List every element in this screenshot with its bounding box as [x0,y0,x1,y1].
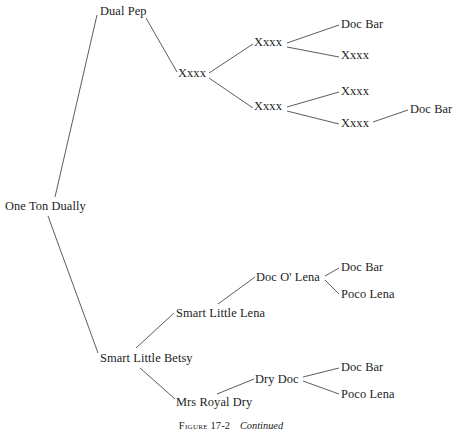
pedigree-connector-lines [0,0,462,438]
edge-gen2-x-top-to-gen3-x-b [209,78,253,108]
edge-smart-little-lena-to-doc-o-lena [218,277,255,304]
edge-one-ton-dually-to-dual-pep [55,15,97,197]
figure-caption-label: Figure [179,420,208,431]
edge-gen4-x-3-to-gen5-doc-bar [373,110,408,122]
node-dry-doc: Dry Doc [255,373,299,386]
figure-caption-number: 17-2 [210,420,230,431]
node-gen3-xxxx-upper: Xxxx [254,36,282,49]
node-gen2-xxxx-top: Xxxx [178,67,206,80]
node-gen3-xxxx-lower: Xxxx [254,100,282,113]
edge-gen3-x-b-to-xxxx-lower [287,111,339,124]
node-dual-pep: Dual Pep [100,5,147,18]
edge-dry-doc-to-poco-lena [303,381,339,394]
node-gen5-doc-bar: Doc Bar [410,103,452,116]
edge-gen3-x-a-to-doc-bar [287,25,339,43]
node-one-ton-dually: One Ton Dually [5,200,86,213]
node-mrs-royal-dry: Mrs Royal Dry [176,396,252,409]
node-doc-o-lena: Doc O' Lena [256,271,320,284]
edge-doc-o-lena-to-doc-bar [325,268,339,276]
edge-gen3-x-a-to-xxxx [287,47,339,57]
node-smart-little-betsy: Smart Little Betsy [100,352,193,365]
edge-smart-little-betsy-to-smart-little-lena [136,313,174,348]
edge-gen2-x-top-to-gen3-x-a [209,44,253,73]
edge-smart-little-betsy-to-mrs-royal-dry [140,368,175,399]
node-gen4-poco-lena-1: Poco Lena [341,288,395,301]
node-gen4-doc-bar-2: Doc Bar [341,261,383,274]
edge-gen3-x-b-to-xxxx-upper [287,92,339,107]
pedigree-chart: One Ton Dually Dual Pep Smart Little Bet… [0,0,462,438]
figure-caption: Figure 17-2 Continued [0,420,462,431]
node-gen4-xxxx-3: Xxxx [341,117,369,130]
node-smart-little-lena: Smart Little Lena [176,307,265,320]
node-gen4-xxxx-2: Xxxx [341,85,369,98]
edge-dry-doc-to-doc-bar [303,368,339,377]
edge-doc-o-lena-to-poco-lena [325,280,339,294]
edge-one-ton-dually-to-smart-little-betsy [48,216,98,353]
figure-caption-continued: Continued [240,420,283,431]
node-gen4-doc-bar-1: Doc Bar [341,18,383,31]
node-gen4-poco-lena-2: Poco Lena [341,388,395,401]
node-gen4-doc-bar-3: Doc Bar [341,361,383,374]
edge-dual-pep-to-gen2-x-top [146,18,177,72]
node-gen4-xxxx-1: Xxxx [341,49,369,62]
edge-mrs-royal-dry-to-dry-doc [217,379,254,394]
